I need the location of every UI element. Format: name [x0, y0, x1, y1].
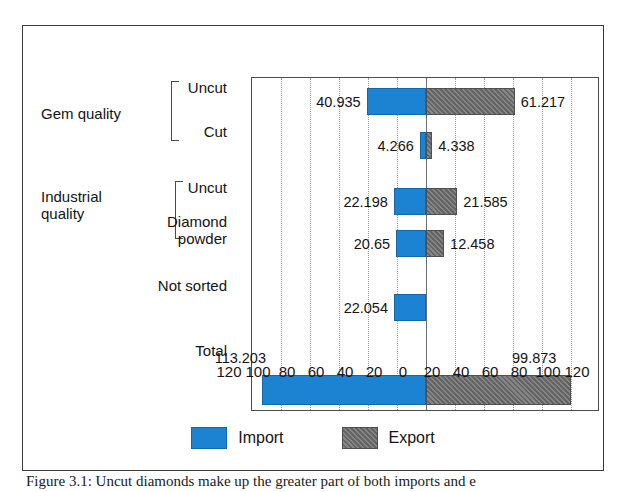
bar-import-not-sorted	[394, 294, 426, 321]
bar-import-gem-uncut	[367, 88, 426, 115]
x-axis: 120 100 80 60 40 20 0 20 40 60 80 100 12…	[229, 363, 577, 383]
figure-caption: Figure 3.1: Uncut diamonds make up the g…	[26, 476, 616, 492]
xtick-120: 120	[559, 363, 595, 381]
category-label-not-sorted: Not sorted	[43, 277, 227, 294]
value-import-industrial-uncut: 22.198	[288, 194, 388, 210]
legend-swatch-import-icon	[191, 427, 227, 449]
value-import-diamond-powder: 20.65	[290, 236, 390, 252]
bar-export-gem-cut	[426, 132, 432, 159]
value-export-industrial-uncut: 21.585	[463, 194, 543, 210]
gridline-neg100	[281, 78, 282, 410]
plot-area: 40.935 61.217 4.266 4.338 22.198 21.585 …	[251, 77, 599, 411]
category-label-gem-uncut: Uncut	[43, 79, 227, 96]
figure-caption-text: Figure 3.1: Uncut diamonds make up the g…	[26, 476, 616, 490]
value-export-gem-uncut: 61.217	[521, 94, 601, 110]
legend-label-import: Import	[238, 429, 283, 447]
legend-label-export: Export	[389, 429, 435, 447]
bar-export-diamond-powder	[426, 230, 444, 257]
value-import-gem-cut: 4.266	[314, 138, 414, 154]
category-label-gem-cut: Cut	[43, 123, 227, 140]
value-import-not-sorted: 22.054	[288, 300, 388, 316]
legend-swatch-export-icon	[342, 427, 378, 449]
value-export-diamond-powder: 12.458	[450, 236, 530, 252]
legend-entry-import: Import	[191, 427, 283, 449]
figure-frame: Gem quality Industrial quality Uncut Cut…	[22, 25, 604, 471]
bar-import-industrial-uncut	[394, 188, 426, 215]
bar-import-diamond-powder	[396, 230, 426, 257]
legend-entry-export: Export	[342, 427, 435, 449]
chart-legend: Import Export	[23, 421, 603, 455]
group-label-gem-quality: Gem quality	[41, 105, 161, 122]
bar-export-gem-uncut	[426, 88, 515, 115]
value-export-gem-cut: 4.338	[438, 138, 518, 154]
category-label-industrial-uncut: Uncut	[43, 179, 227, 196]
category-label-diamond-powder: Diamond powder	[43, 213, 227, 247]
value-import-gem-uncut: 40.935	[261, 94, 361, 110]
bar-export-industrial-uncut	[426, 188, 457, 215]
